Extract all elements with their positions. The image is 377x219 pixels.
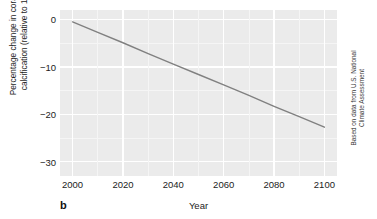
panel-label: b (60, 199, 67, 211)
x-axis-tick-label: 2040 (163, 179, 184, 190)
y-axis-tick-label: −10 (26, 61, 56, 72)
chart-figure: Percentage change in coral reef calcific… (0, 0, 377, 219)
y-axis-tick-label: −20 (26, 109, 56, 120)
source-credit-line-1: Based on data from U.S. National (350, 23, 358, 173)
line-series-coral-calcification (73, 22, 325, 127)
x-axis-tick-labels: 200020202040206020802100 (0, 179, 377, 193)
data-series-layer (60, 10, 337, 176)
x-axis-tick-label: 2020 (112, 179, 133, 190)
x-axis-tick-label: 2000 (62, 179, 83, 190)
x-axis-tick-label: 2080 (263, 179, 284, 190)
plot-panel (60, 10, 337, 176)
x-axis-tick-label: 2060 (213, 179, 234, 190)
y-axis-tick-label: 0 (26, 14, 56, 25)
x-axis-title: Year (60, 200, 337, 211)
source-credit: Based on data from U.S. National Climate… (350, 23, 366, 173)
source-credit-line-2: Climate Assessment (358, 23, 366, 173)
y-axis-title-line-1: Percentage change in coral reef (8, 0, 19, 117)
x-axis-tick-label: 2100 (314, 179, 335, 190)
y-axis-tick-label: −30 (26, 156, 56, 167)
